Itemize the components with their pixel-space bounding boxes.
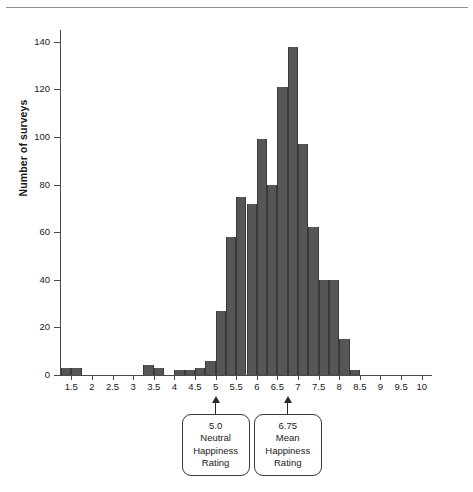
x-tick-mark (133, 376, 134, 380)
y-tick-mark (54, 280, 60, 281)
histogram-bar (61, 368, 71, 375)
x-tick-mark (92, 376, 93, 380)
x-tick-mark (216, 376, 217, 380)
x-tick-mark (422, 376, 423, 380)
histogram-bar (267, 185, 277, 375)
y-tick-label: 140 (10, 37, 50, 47)
histogram-bar (154, 368, 164, 375)
x-tick-mark (298, 376, 299, 380)
y-tick-label: 100 (10, 132, 50, 142)
x-tick-mark (380, 376, 381, 380)
x-tick-mark (401, 376, 402, 380)
histogram-bar (339, 339, 349, 375)
y-tick-label: 40 (10, 275, 50, 285)
y-tick-label: 80 (10, 180, 50, 190)
callout-line: Mean (255, 432, 321, 444)
histogram-bar (174, 370, 184, 375)
y-tick-mark (54, 232, 60, 233)
x-tick-mark (257, 376, 258, 380)
histogram-bar (247, 204, 257, 375)
top-horizontal-rule (6, 7, 468, 8)
y-tick-mark (54, 42, 60, 43)
x-tick-mark (319, 376, 320, 380)
histogram-bar (71, 368, 81, 375)
histogram-bar (185, 370, 195, 375)
y-tick-label: 120 (10, 84, 50, 94)
y-tick-label: 20 (10, 322, 50, 332)
y-tick-label: 0 (10, 370, 50, 380)
callout-line: Rating (183, 457, 249, 469)
x-tick-mark (113, 376, 114, 380)
callout-line: 5.0 (183, 420, 249, 432)
histogram-bar (236, 197, 246, 375)
x-tick-label: 10 (407, 381, 437, 392)
x-tick-mark (360, 376, 361, 380)
histogram-bar (257, 139, 267, 375)
x-tick-mark (236, 376, 237, 380)
histogram-bar (226, 237, 236, 375)
y-tick-mark (54, 185, 60, 186)
y-tick-mark (54, 137, 60, 138)
x-tick-mark (195, 376, 196, 380)
y-tick-mark (54, 89, 60, 90)
y-tick-mark (54, 327, 60, 328)
histogram-bars (61, 30, 432, 375)
histogram-bar (298, 144, 308, 375)
histogram-bar (308, 227, 318, 375)
histogram-bar (195, 368, 205, 375)
histogram-bar (205, 361, 215, 375)
callout-line: Neutral (183, 432, 249, 444)
histogram-bar (319, 280, 329, 375)
histogram-bar (216, 311, 226, 375)
y-axis-title: Number of surveys (17, 78, 29, 218)
callout-line: Happiness (183, 445, 249, 457)
histogram-bar (143, 365, 153, 375)
histogram-figure: Number of surveys 020406080100120140 1.5… (0, 0, 473, 492)
histogram-bar (329, 280, 339, 375)
neutral-happiness-callout: 5.0NeutralHappinessRating (182, 414, 250, 476)
x-tick-mark (174, 376, 175, 380)
x-tick-mark (154, 376, 155, 380)
x-tick-mark (339, 376, 340, 380)
x-tick-mark (277, 376, 278, 380)
histogram-bar (288, 47, 298, 375)
callout-line: Rating (255, 457, 321, 469)
callout-line: Happiness (255, 445, 321, 457)
y-tick-label: 60 (10, 227, 50, 237)
y-tick-mark (54, 375, 60, 376)
callout-line: 6.75 (255, 420, 321, 432)
histogram-bar (277, 87, 287, 375)
x-tick-mark (71, 376, 72, 380)
mean-happiness-callout: 6.75MeanHappinessRating (254, 414, 322, 476)
x-axis-line (61, 375, 432, 376)
histogram-bar (350, 370, 360, 375)
